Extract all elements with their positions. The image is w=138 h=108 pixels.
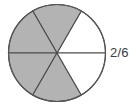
figure-canvas: 2/6 bbox=[0, 0, 138, 108]
fraction-label: 2/6 bbox=[110, 44, 129, 62]
